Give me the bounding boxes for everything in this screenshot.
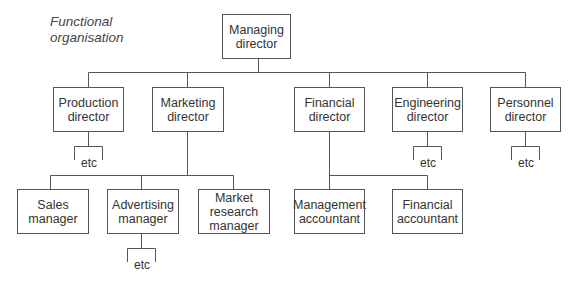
node-financial-accountant: Financial accountant [392,189,463,234]
etc-label-production: etc [74,156,104,170]
node-market-research-manager: Market research manager [198,189,270,234]
etc-label-engineering: etc [413,156,443,170]
node-label: Financial director [304,96,354,124]
node-label: Production director [59,96,119,124]
node-label: Sales manager [28,198,77,226]
node-label: Market research manager [209,191,258,233]
node-label: Marketing director [161,96,216,124]
node-managing-director: Managing director [222,14,291,59]
node-management-accountant: Management accountant [294,189,365,234]
node-sales-manager: Sales manager [17,189,89,234]
node-advertising-manager: Advertising manager [107,189,179,234]
etc-label-personnel: etc [511,156,541,170]
node-label: Personnel director [497,96,553,124]
node-label: Managing director [229,23,284,51]
node-personnel-director: Personnel director [490,87,561,132]
node-financial-director: Financial director [294,87,365,132]
node-marketing-director: Marketing director [152,87,224,132]
etc-label-advertising: etc [127,258,157,272]
node-engineering-director: Engineering director [392,87,463,132]
node-label: Advertising manager [112,198,174,226]
node-label: Management accountant [293,198,366,226]
chart-title: Functional organisation [50,14,124,46]
node-label: Financial accountant [397,198,458,226]
node-production-director: Production director [53,87,124,132]
node-label: Engineering director [394,96,461,124]
